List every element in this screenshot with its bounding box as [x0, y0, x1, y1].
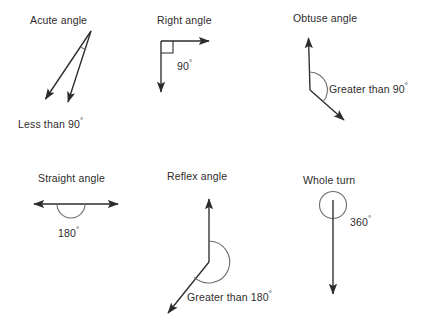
- reflex-angle-title: Reflex angle: [167, 170, 227, 182]
- reflex-angle-measure: Greater than 180°: [187, 288, 272, 303]
- straight-angle-semicircle: [57, 204, 85, 218]
- degree-symbol: °: [76, 225, 79, 234]
- angles-diagram: Acute angle Less than 90° Right angle 90…: [0, 0, 432, 326]
- degree-symbol: °: [405, 81, 408, 90]
- acute-angle-measure: Less than 90°: [18, 115, 83, 130]
- whole-turn-figure: [320, 192, 347, 295]
- obtuse-angle-measure: Greater than 90°: [329, 80, 408, 95]
- right-angle-square-marker: [161, 41, 173, 53]
- straight-angle-figure: [34, 204, 118, 218]
- right-angle-measure: 90°: [177, 57, 192, 72]
- whole-turn-measure-text: 360: [350, 216, 368, 228]
- degree-symbol: °: [368, 214, 371, 223]
- acute-ray-right: [68, 31, 91, 102]
- straight-angle-measure-text: 180: [58, 227, 76, 239]
- degree-symbol: °: [269, 289, 272, 298]
- right-angle-measure-text: 90: [177, 60, 189, 72]
- angle-figures-svg: [0, 0, 432, 326]
- acute-angle-title: Acute angle: [30, 14, 87, 26]
- acute-ray-left: [46, 31, 92, 99]
- whole-turn-measure: 360°: [350, 213, 371, 228]
- obtuse-angle-measure-text: Greater than 90: [329, 83, 405, 95]
- reflex-angle-measure-text: Greater than 180: [187, 291, 269, 303]
- reflex-angle-arc: [194, 241, 229, 283]
- obtuse-ray-up: [309, 38, 311, 90]
- straight-angle-measure: 180°: [58, 224, 79, 239]
- degree-symbol: °: [80, 116, 83, 125]
- acute-angle-measure-text: Less than 90: [18, 118, 80, 130]
- obtuse-angle-title: Obtuse angle: [293, 12, 357, 24]
- obtuse-angle-figure: [309, 38, 345, 120]
- straight-angle-title: Straight angle: [38, 172, 105, 184]
- whole-turn-title: Whole turn: [303, 174, 355, 186]
- degree-symbol: °: [189, 58, 192, 67]
- acute-angle-figure: [46, 31, 92, 102]
- right-angle-title: Right angle: [157, 14, 212, 26]
